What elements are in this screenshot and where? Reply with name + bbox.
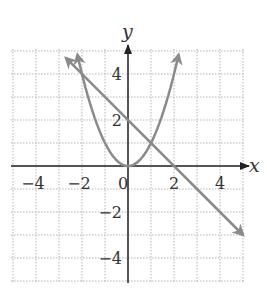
x-tick-label: −2	[67, 174, 91, 193]
linear-line	[66, 58, 243, 235]
y-tick-label: 4	[112, 65, 122, 84]
x-tick-label: 4	[215, 174, 225, 193]
coordinate-graph: −4−202442−2−4 x y	[0, 0, 267, 292]
curves	[66, 55, 243, 235]
y-tick-label: 2	[112, 111, 122, 130]
x-tick-label: 0	[118, 174, 128, 193]
x-tick-label: 2	[169, 174, 179, 193]
y-tick-label: −2	[98, 203, 122, 222]
x-axis-label: x	[249, 154, 260, 176]
axes	[11, 45, 249, 283]
y-axis-label: y	[121, 20, 133, 42]
y-tick-label: −4	[98, 249, 122, 268]
x-tick-label: −4	[21, 174, 45, 193]
